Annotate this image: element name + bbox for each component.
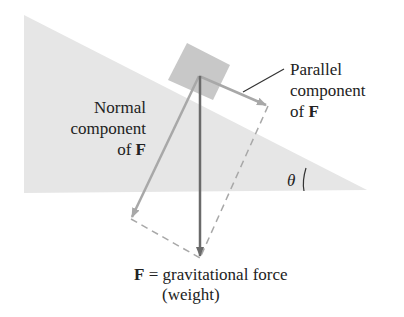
- normal-label-line3: of F: [60, 139, 146, 160]
- normal-label-line1: Normal: [60, 97, 146, 118]
- dashed-line-bottom: [131, 219, 200, 258]
- weight-caption: (weight): [162, 284, 220, 305]
- parallel-label-line3: of F: [290, 101, 366, 122]
- parallel-label-leader: [243, 69, 284, 92]
- force-caption: F = gravitational force: [134, 264, 288, 285]
- parallel-label-line1: Parallel: [290, 59, 366, 80]
- normal-label-line2: component: [60, 118, 146, 139]
- theta-label: θ: [287, 170, 295, 191]
- parallel-label-line2: component: [290, 80, 366, 101]
- parallel-component-label: Parallel component of F: [290, 59, 366, 122]
- normal-component-label: Normal component of F: [60, 97, 146, 160]
